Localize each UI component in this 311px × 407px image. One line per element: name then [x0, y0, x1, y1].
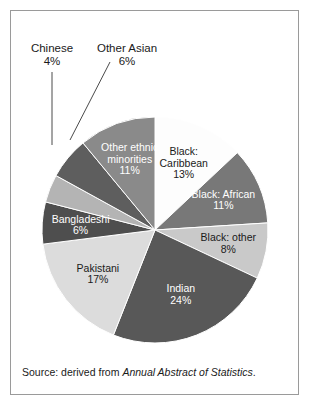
- caption-source-title: Annual Abstract of Statistics: [122, 366, 252, 378]
- callout-label: Other Asian6%: [97, 42, 157, 67]
- source-caption: Source: derived from Annual Abstract of …: [22, 366, 292, 378]
- pie-chart-svg: Black:Caribbean13%Black: African11%Black…: [0, 0, 311, 407]
- callout-labels: Chinese4%Other Asian6%: [31, 42, 157, 67]
- callout-label: Chinese4%: [31, 42, 73, 67]
- slice-label: Indian24%: [166, 282, 195, 306]
- pie-chart-figure: Black:Caribbean13%Black: African11%Black…: [0, 0, 311, 407]
- leader-line: [70, 62, 110, 140]
- chart-area: Black:Caribbean13%Black: African11%Black…: [0, 0, 311, 407]
- caption-suffix: .: [253, 366, 256, 378]
- caption-divider: [19, 352, 291, 353]
- caption-prefix: Source: derived from: [22, 366, 122, 378]
